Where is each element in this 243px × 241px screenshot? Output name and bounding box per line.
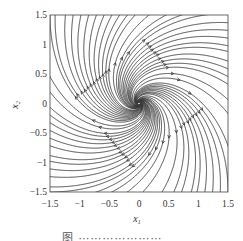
x-tick-label: 0.5 xyxy=(163,199,175,209)
phase-portrait-figure: −1.5−1−0.500.511.5 1.510.50−0.5−1−1.5 x1… xyxy=(0,0,243,241)
streamlines xyxy=(47,12,231,195)
x-tick-label: −0.5 xyxy=(101,199,118,209)
y-tick-label: −1.5 xyxy=(30,187,47,197)
y-tick-label: 1 xyxy=(42,40,47,50)
y-tick-label: −1 xyxy=(37,158,47,168)
x-axis-ticks: −1.5−1−0.500.511.5 xyxy=(41,199,234,209)
y-tick-label: 1.5 xyxy=(35,10,47,20)
y-tick-label: −0.5 xyxy=(30,128,47,138)
y-tick-label: 0.5 xyxy=(35,69,47,79)
y-tick-label: 0 xyxy=(42,99,47,109)
x-tick-label: −1 xyxy=(75,199,85,209)
x-tick-label: 1 xyxy=(196,199,201,209)
plot-frame xyxy=(50,15,228,192)
x-tick-label: −1.5 xyxy=(41,199,58,209)
y-axis-ticks: 1.510.50−0.5−1−1.5 xyxy=(30,10,47,197)
x-tick-label: 1.5 xyxy=(222,199,234,209)
x-axis-label: x1 xyxy=(132,213,140,225)
y-axis-label: x2 xyxy=(9,101,21,109)
x-tick-label: 0 xyxy=(137,199,142,209)
figure-caption: 图 ⋯⋯⋯⋯⋯⋯⋯ xyxy=(62,229,243,241)
